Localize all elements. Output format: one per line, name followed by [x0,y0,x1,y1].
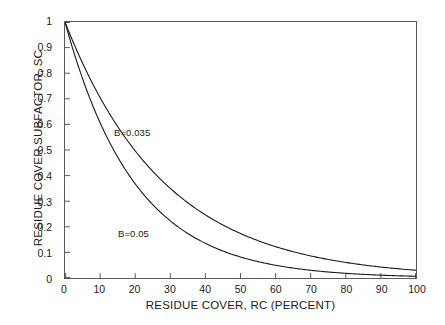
y-axis-title: RESIDUE COVER SUBFACTOR, SC [32,0,44,298]
x-axis-title: RESIDUE COVER, RC (PERCENT) [64,299,417,311]
curve-label-b-005: B=0.05 [118,228,149,239]
x-tick-label: 0 [61,284,67,295]
curve-label-b-0035: B=0.035 [114,127,150,138]
y-axis-tick-labels: 00.10.20.30.40.50.60.70.80.91 [0,21,59,279]
x-tick-label: 40 [199,284,211,295]
y-tick-label: 1 [46,16,52,27]
chart-figure: 00.10.20.30.40.50.60.70.80.91 0102030405… [0,0,445,325]
x-tick-label: 60 [270,284,282,295]
tick-marks [65,22,416,278]
y-tick-label: 0 [46,274,52,285]
plot-area [64,21,417,279]
x-tick-label: 50 [235,284,247,295]
x-tick-label: 10 [93,284,105,295]
x-tick-label: 30 [164,284,176,295]
x-tick-label: 80 [341,284,353,295]
plot-canvas [65,22,416,278]
x-tick-label: 20 [129,284,141,295]
x-tick-label: 100 [408,284,426,295]
x-tick-label: 70 [305,284,317,295]
x-tick-label: 90 [376,284,388,295]
x-axis-tick-labels: 0102030405060708090100 [64,282,417,298]
